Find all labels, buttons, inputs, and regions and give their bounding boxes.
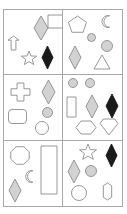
panel-bottom-right xyxy=(63,141,122,206)
panel-middle-left xyxy=(4,75,63,140)
rounded-rectangle-icon xyxy=(8,109,27,124)
circle-icon xyxy=(87,33,96,42)
panel-top-right xyxy=(63,10,122,75)
heart-icon xyxy=(100,119,118,135)
circle-icon xyxy=(35,121,49,135)
panel-top-left xyxy=(4,10,63,75)
triangle-icon xyxy=(94,55,110,69)
panel-grid xyxy=(3,9,123,207)
shape-grid-figure xyxy=(0,0,127,214)
diamond-icon xyxy=(69,46,81,69)
diamond-icon xyxy=(86,95,98,118)
circle-icon xyxy=(71,185,87,201)
panel-bottom-left xyxy=(4,141,63,206)
pentagon-icon xyxy=(68,16,87,34)
diamond-icon xyxy=(42,46,53,69)
octagon-icon xyxy=(10,146,30,165)
diamond-icon xyxy=(34,16,48,40)
crescent-icon xyxy=(23,170,35,183)
rectangle-icon xyxy=(41,146,57,194)
square-icon xyxy=(48,15,63,28)
circle-icon xyxy=(42,107,53,118)
i-beam-arrows-icon xyxy=(98,183,117,200)
circle-icon xyxy=(85,78,95,88)
cross-icon xyxy=(11,83,30,101)
star-icon xyxy=(79,144,97,161)
rectangle-icon xyxy=(67,97,76,117)
arrow-up-banner-icon xyxy=(8,36,19,50)
circle-icon xyxy=(68,78,78,88)
hexagon-icon xyxy=(76,120,96,135)
diamond-icon xyxy=(106,144,117,167)
diamond-icon xyxy=(68,160,80,183)
circle-icon xyxy=(85,165,97,177)
panel-middle-right xyxy=(63,75,122,140)
crescent-icon xyxy=(99,15,112,28)
diamond-icon xyxy=(42,80,55,104)
diamond-icon xyxy=(9,179,21,202)
diamond-icon xyxy=(106,94,118,118)
circle-icon xyxy=(101,40,113,52)
star-icon xyxy=(21,51,37,66)
